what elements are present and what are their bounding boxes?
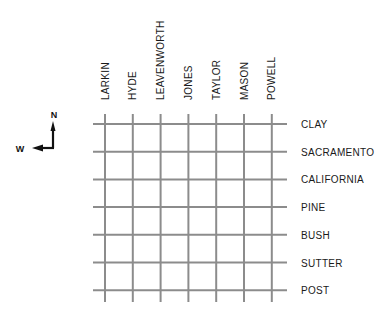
compass-west-label: W — [16, 144, 25, 154]
street-label-larkin: LARKIN — [100, 62, 111, 100]
street-label-hyde: HYDE — [127, 71, 138, 100]
street-label-sutter: SUTTER — [301, 258, 343, 269]
street-grid-map: N W LARKINHYDELEAVENWORTHJONESTAYLORMASO… — [0, 0, 388, 320]
north-south-street-labels: LARKINHYDELEAVENWORTHJONESTAYLORMASONPOW… — [100, 20, 278, 100]
street-label-clay: CLAY — [301, 119, 328, 130]
street-label-pine: PINE — [301, 202, 326, 213]
street-grid — [93, 114, 287, 302]
street-label-post: POST — [301, 285, 329, 296]
street-label-jones: JONES — [183, 65, 194, 100]
street-label-mason: MASON — [239, 62, 250, 100]
compass: N W — [16, 110, 58, 154]
street-label-powell: POWELL — [266, 56, 277, 100]
street-label-california: CALIFORNIA — [301, 174, 364, 185]
street-label-bush: BUSH — [301, 230, 330, 241]
street-label-leavenworth: LEAVENWORTH — [155, 20, 166, 100]
east-west-street-labels: CLAYSACRAMENTOCALIFORNIAPINEBUSHSUTTERPO… — [301, 119, 374, 296]
compass-north-west-arrow-icon — [32, 121, 56, 152]
street-label-sacramento: SACRAMENTO — [301, 147, 374, 158]
street-label-taylor: TAYLOR — [211, 60, 222, 100]
compass-north-label: N — [51, 110, 58, 120]
